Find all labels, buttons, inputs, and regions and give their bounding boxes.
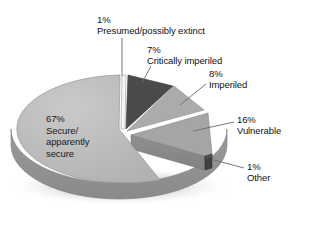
slice-percent-critically-imperiled: 7% — [147, 44, 222, 55]
slice-name-extinct: Presumed/possibly extinct — [97, 25, 205, 36]
pie-chart: 1% Presumed/possibly extinct 7% Critical… — [0, 0, 315, 229]
slice-label-vulnerable: 16% Vulnerable — [237, 114, 281, 136]
slice-name-other: Other — [247, 172, 270, 183]
slice-label-other: 1% Other — [247, 161, 270, 183]
slice-percent-extinct: 1% — [97, 14, 205, 25]
slice-name-critically-imperiled: Critically imperiled — [147, 55, 222, 66]
slice-label-secure: 67% Secure/ apparently secure — [46, 113, 89, 159]
slice-name-imperiled: Imperiled — [209, 79, 247, 90]
slice-label-critically-imperiled: 7% Critically imperiled — [147, 44, 222, 66]
pie-slice-extinct — [121, 75, 126, 129]
slice-name-vulnerable: Vulnerable — [237, 125, 281, 136]
slice-percent-imperiled: 8% — [209, 68, 247, 79]
slice-percent-secure: 67% — [46, 113, 89, 125]
slice-percent-other: 1% — [247, 161, 270, 172]
slice-name-secure-line1: Secure/ — [46, 125, 89, 137]
slice-percent-vulnerable: 16% — [237, 114, 281, 125]
slice-name-secure-line2: apparently — [46, 136, 89, 148]
slice-name-secure-line3: secure — [46, 148, 89, 160]
slice-label-imperiled: 8% Imperiled — [209, 68, 247, 90]
slice-label-extinct: 1% Presumed/possibly extinct — [97, 14, 205, 36]
